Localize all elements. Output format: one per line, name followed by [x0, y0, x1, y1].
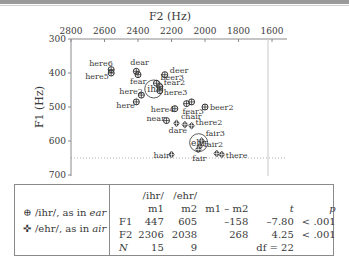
y-tick-label: 400	[49, 68, 66, 78]
header-p: p	[298, 202, 340, 215]
legend-stats-box: ⊕/ihr/, as in ear ✜/ehr/, as in air /ihr…	[14, 184, 334, 256]
point-label: beer2	[210, 103, 234, 112]
legend-item-ihr: ⊕/ihr/, as in ear	[23, 207, 106, 218]
y-axis-title: F1 (Hz)	[33, 86, 46, 128]
x-tick-label: 1600	[261, 26, 284, 36]
point-label: here4	[151, 105, 175, 114]
point-label: fair3	[206, 129, 225, 138]
point-label: fair	[192, 154, 206, 163]
point-label: fear	[130, 77, 146, 86]
point-label: there2	[196, 118, 223, 127]
x-tick-label: 2600	[93, 26, 116, 36]
legend-word: ear	[90, 207, 107, 218]
header-row-1: /ihr/ /ehr/	[115, 189, 340, 202]
header-m2: m2	[168, 202, 201, 215]
circle-plus-icon: ⊕	[23, 207, 35, 218]
x-axis-title: F2 (Hz)	[149, 10, 191, 23]
y-tick-label: 300	[49, 34, 66, 44]
mean-label: ehr	[191, 138, 207, 148]
point-label: here5	[85, 72, 109, 81]
y-tick-label: 500	[49, 102, 66, 112]
point-label: dear	[130, 58, 149, 67]
point-label: here2	[119, 87, 143, 96]
x-tick-label: 2400	[127, 26, 150, 36]
x-axis-ticks: 2800260024002200200018001600	[60, 26, 284, 42]
header-ehr: /ehr/	[168, 189, 201, 202]
header-row-2: m1 m2 m1 – m2 t p	[115, 202, 340, 215]
point-label: hair	[154, 151, 170, 160]
header-t: t	[252, 202, 298, 215]
table-row-f2: F2 2306 2038 268 4.25 < .001	[115, 228, 340, 241]
point-label: there	[226, 151, 248, 160]
formant-scatter-plot: F2 (Hz) F1 (Hz) 280026002400220020001800…	[0, 0, 349, 184]
legend-word: air	[92, 223, 106, 234]
diamond-plus-icon: ✜	[23, 223, 35, 234]
point-label: fair2	[204, 140, 223, 149]
header-ihr: /ihr/	[134, 189, 167, 202]
table-row-n: N 15 9 df = 22	[115, 241, 340, 254]
y-tick-label: 700	[49, 170, 66, 180]
legend-label: /ihr/, as in	[35, 207, 90, 218]
legend-label: /ehr/, as in	[35, 223, 92, 234]
y-axis-ticks: 300400500600700	[49, 34, 71, 180]
header-m1: m1	[134, 202, 167, 215]
legend: ⊕/ihr/, as in ear ✜/ehr/, as in air	[15, 185, 110, 255]
point-label: near	[146, 114, 165, 123]
point-label: fear2	[164, 78, 185, 87]
y-tick-label: 600	[49, 136, 66, 146]
header-diff: m1 – m2	[201, 202, 252, 215]
x-tick-label: 2200	[160, 26, 183, 36]
legend-item-ehr: ✜/ehr/, as in air	[23, 223, 106, 234]
point-label: here6	[89, 59, 113, 68]
stats-table: /ihr/ /ehr/ m1 m2 m1 – m2 t p F1 447 605…	[115, 189, 340, 254]
table-row-f1: F1 447 605 –158 –7.80 < .001	[115, 215, 340, 228]
point-label: here3	[164, 88, 188, 97]
point-label: here	[116, 101, 135, 110]
mean-label: ihr	[147, 84, 161, 94]
x-tick-label: 2000	[194, 26, 217, 36]
x-tick-label: 1800	[227, 26, 250, 36]
data-points: here6here5dearfeardeerbeer3fear2here3her…	[85, 58, 247, 162]
